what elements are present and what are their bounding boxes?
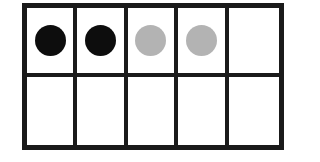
ten-frame-cell [27,77,77,146]
ten-frame-cell [27,8,77,77]
ten-frame [22,3,284,150]
ten-frame-cell [178,8,228,77]
ten-frame-cell [77,77,127,146]
gray-counter-icon [186,25,217,56]
ten-frame-cell [128,8,178,77]
black-counter-icon [35,25,66,56]
ten-frame-cell [178,77,228,146]
ten-frame-cell [229,8,279,77]
black-counter-icon [85,25,116,56]
ten-frame-cell [77,8,127,77]
ten-frame-cell [128,77,178,146]
gray-counter-icon [135,25,166,56]
ten-frame-cell [229,77,279,146]
